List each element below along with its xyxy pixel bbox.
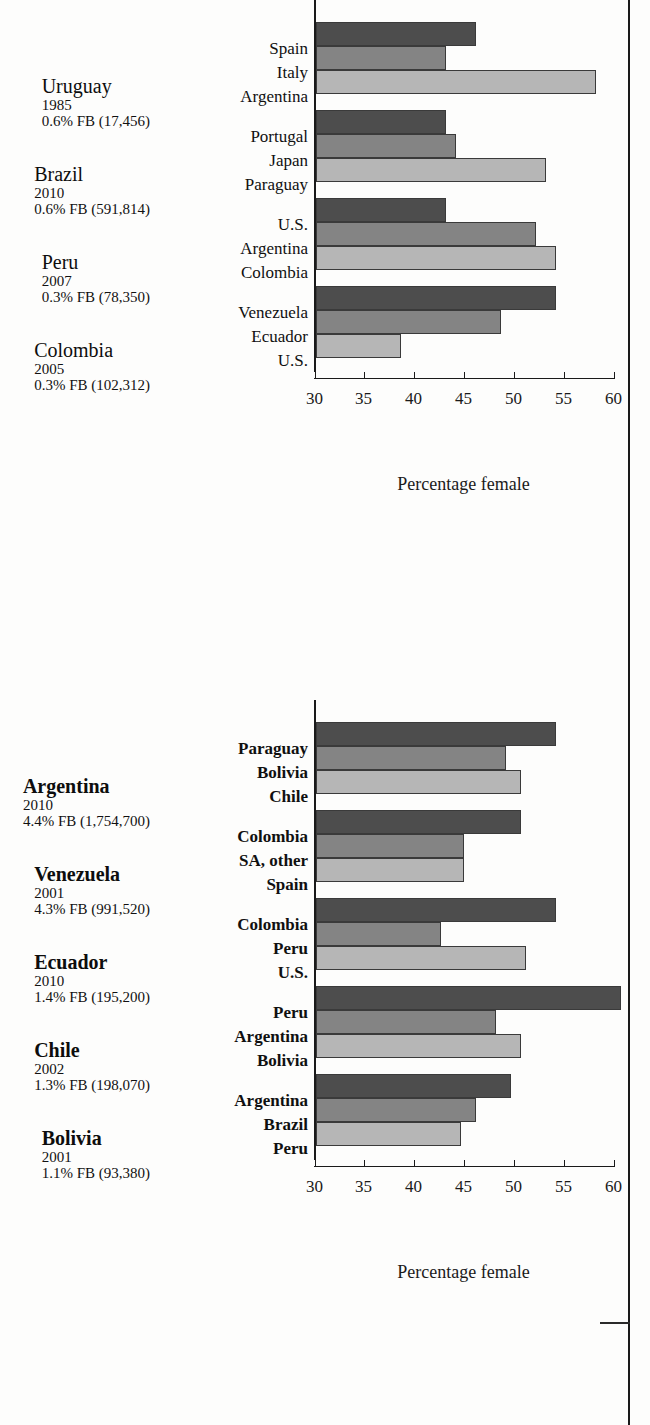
category-label: Peru — [273, 1140, 308, 1157]
axis-tick-label: 60 — [605, 390, 622, 407]
axis-tick — [514, 372, 515, 379]
group-foreign-born: 0.3% FB (102,312) — [34, 377, 150, 393]
group-header: Bolivia20011.1% FB (93,380) — [42, 1128, 150, 1181]
group-year: 2002 — [34, 1061, 150, 1077]
category-label: Japan — [269, 152, 308, 169]
axis-tick — [464, 1160, 465, 1167]
figure-page: 30354045505560Percentage femaleSpainItal… — [0, 0, 650, 1425]
axis-tick — [364, 1160, 365, 1167]
axis-tick-label: 35 — [355, 1178, 372, 1195]
chart-top: 30354045505560Percentage femaleSpainItal… — [0, 0, 650, 690]
bar — [316, 334, 401, 358]
bar — [316, 922, 441, 946]
axis-tick-label: 55 — [555, 390, 572, 407]
group-gap — [316, 970, 614, 986]
axis-tick-label: 30 — [306, 390, 323, 407]
group-foreign-born: 0.6% FB (17,456) — [42, 113, 150, 129]
group-gap — [316, 882, 614, 898]
axis-tick-label: 50 — [505, 1178, 522, 1195]
axis-tick-label: 40 — [405, 1178, 422, 1195]
category-label: Chile — [269, 788, 308, 805]
value-axis: 30354045505560 — [314, 1166, 614, 1167]
group-gap — [316, 94, 614, 110]
bar-group — [316, 898, 614, 970]
axis-tick-label: 40 — [405, 390, 422, 407]
bar — [316, 246, 556, 270]
axis-tick-label: 45 — [455, 1178, 472, 1195]
chart-bottom: 30354045505560Percentage femaleParaguayB… — [0, 700, 650, 1425]
axis-tick — [414, 1160, 415, 1167]
category-label: Paraguay — [245, 176, 308, 193]
category-label: Ecuador — [251, 328, 308, 345]
axis-title: Percentage female — [397, 474, 529, 495]
group-foreign-born: 4.3% FB (991,520) — [34, 901, 150, 917]
axis-tick — [414, 372, 415, 379]
group-country: Venezuela — [34, 864, 150, 885]
bar — [316, 858, 464, 882]
group-country: Peru — [42, 252, 150, 273]
category-label: Bolivia — [257, 764, 308, 781]
group-foreign-born: 1.1% FB (93,380) — [42, 1165, 150, 1181]
bar — [316, 198, 446, 222]
category-label: U.S. — [278, 964, 308, 981]
category-label: Argentina — [234, 1028, 308, 1045]
group-gap — [316, 1058, 614, 1074]
group-year: 2010 — [34, 973, 150, 989]
category-label: Peru — [273, 1004, 308, 1021]
axis-tick-label: 30 — [306, 1178, 323, 1195]
bar — [316, 946, 526, 970]
group-country: Bolivia — [42, 1128, 150, 1149]
group-gap — [316, 270, 614, 286]
plot-area — [314, 700, 614, 1160]
group-year: 2001 — [34, 885, 150, 901]
category-label: Spain — [269, 40, 308, 57]
bar — [316, 1074, 511, 1098]
bar — [316, 746, 506, 770]
group-country: Argentina — [23, 776, 150, 797]
group-header: Chile20021.3% FB (198,070) — [34, 1040, 150, 1093]
category-label: Portugal — [250, 128, 308, 145]
category-label: Venezuela — [238, 304, 308, 321]
bar-group — [316, 110, 614, 182]
bar — [316, 70, 596, 94]
axis-baseline — [314, 700, 316, 1160]
bar — [316, 110, 446, 134]
category-label: U.S. — [278, 216, 308, 233]
bar-group — [316, 810, 614, 882]
category-label: Argentina — [234, 1092, 308, 1109]
category-label: Argentina — [240, 88, 308, 105]
group-year: 1985 — [42, 97, 150, 113]
group-header: Colombia20050.3% FB (102,312) — [34, 340, 150, 393]
axis-tick — [315, 1160, 316, 1167]
axis-tick — [614, 1160, 615, 1167]
bar-group — [316, 722, 614, 794]
bar — [316, 1098, 476, 1122]
axis-tick-label: 60 — [605, 1178, 622, 1195]
bar — [316, 986, 621, 1010]
group-header: Argentina20104.4% FB (1,754,700) — [23, 776, 150, 829]
group-country: Colombia — [34, 340, 150, 361]
bar — [316, 22, 476, 46]
group-foreign-born: 1.4% FB (195,200) — [34, 989, 150, 1005]
axis-title: Percentage female — [397, 1262, 529, 1283]
bar — [316, 810, 521, 834]
group-header: Ecuador20101.4% FB (195,200) — [34, 952, 150, 1005]
group-foreign-born: 4.4% FB (1,754,700) — [23, 813, 150, 829]
axis-tick-label: 55 — [555, 1178, 572, 1195]
axis-tick — [564, 372, 565, 379]
axis-tick — [364, 372, 365, 379]
axis-tick — [564, 1160, 565, 1167]
group-year: 2005 — [34, 361, 150, 377]
bar — [316, 722, 556, 746]
category-label: Brazil — [264, 1116, 308, 1133]
bar-group — [316, 286, 614, 358]
group-header: Uruguay19850.6% FB (17,456) — [42, 76, 150, 129]
bar — [316, 1122, 461, 1146]
axis-tick — [514, 1160, 515, 1167]
group-header: Brazil20100.6% FB (591,814) — [34, 164, 150, 217]
axis-tick-label: 35 — [355, 390, 372, 407]
bar — [316, 834, 464, 858]
axis-tick — [614, 372, 615, 379]
group-foreign-born: 0.6% FB (591,814) — [34, 201, 150, 217]
group-country: Brazil — [34, 164, 150, 185]
